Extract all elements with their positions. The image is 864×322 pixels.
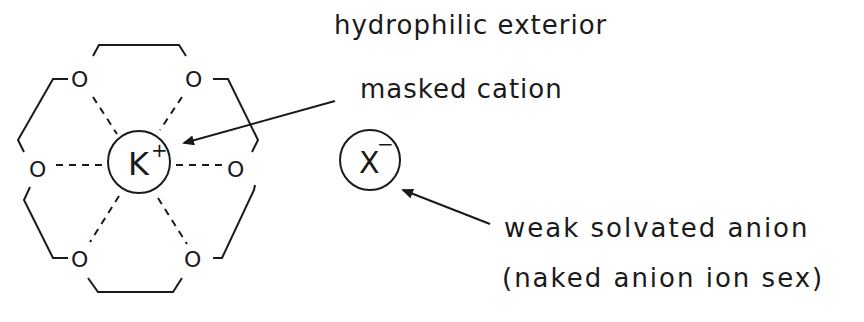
- weak-anion-arrow: [403, 190, 490, 224]
- naked-anion-label: (naked anion ion sex): [502, 263, 824, 293]
- oxygen-atom: O: [185, 67, 202, 92]
- potassium-cation: K +: [108, 131, 170, 193]
- anion: X −: [340, 130, 400, 190]
- hydrophilic-exterior-label: hydrophilic exterior: [334, 10, 607, 40]
- cation-charge: +: [151, 138, 168, 162]
- oxygen-atom: O: [29, 157, 46, 182]
- oxygen-atom: O: [184, 247, 201, 272]
- anion-charge: −: [377, 132, 394, 156]
- oxygen-atom: O: [71, 67, 88, 92]
- cation-symbol: K: [128, 145, 150, 183]
- oxygen-atom: O: [71, 247, 88, 272]
- masked-cation-arrow: [184, 101, 335, 143]
- masked-cation-label: masked cation: [360, 74, 563, 104]
- weak-solvated-anion-label: weak solvated anion: [504, 213, 810, 243]
- oxygen-atom: O: [227, 157, 244, 182]
